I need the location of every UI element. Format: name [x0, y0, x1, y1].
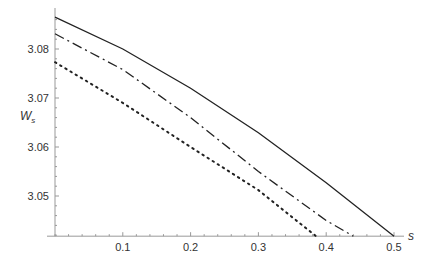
x-axis-label: s — [408, 229, 414, 243]
series-lines — [55, 17, 394, 236]
y-tick-label: 3.05 — [28, 190, 49, 202]
y-tick-label: 3.07 — [28, 92, 49, 104]
series-dotted — [55, 62, 316, 236]
x-tick-label: 0.4 — [319, 241, 334, 253]
axes: 0.10.20.30.40.53.053.063.073.08 — [28, 8, 404, 253]
y-tick-label: 3.08 — [28, 43, 49, 55]
y-tick-label: 3.06 — [28, 141, 49, 153]
x-tick-label: 0.3 — [251, 241, 266, 253]
x-tick-label: 0.2 — [183, 241, 198, 253]
line-plot: 0.10.20.30.40.53.053.063.073.08 Ws s — [0, 0, 424, 264]
x-tick-label: 0.1 — [115, 241, 130, 253]
chart: 0.10.20.30.40.53.053.063.073.08 Ws s — [0, 0, 424, 264]
x-tick-label: 0.5 — [386, 241, 401, 253]
series-dash-dot — [55, 34, 353, 236]
y-axis-label: Ws — [20, 109, 35, 125]
series-solid — [55, 17, 394, 236]
